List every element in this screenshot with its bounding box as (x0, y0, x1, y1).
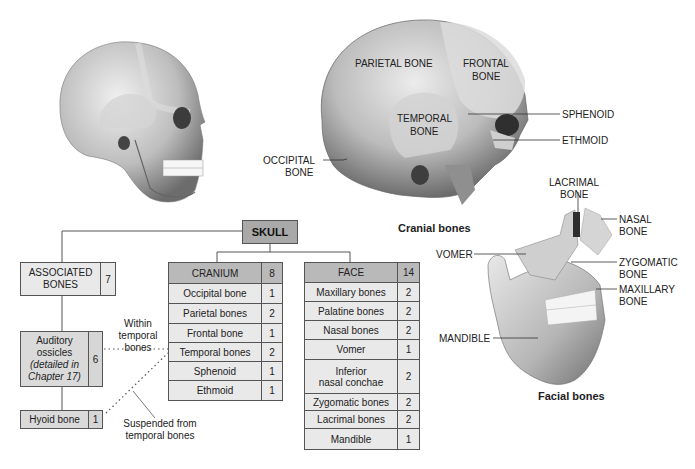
face-count: 14 (398, 263, 420, 283)
caption-facial-bones: Facial bones (538, 390, 605, 402)
face-row-name: Lacrimal bones (305, 411, 398, 429)
label-occipital-bone-line1: OCCIPITAL (263, 155, 315, 166)
associated-bones-box: ASSOCIATED BONES (20, 262, 101, 296)
label-parietal-bone: PARIETAL BONE (355, 58, 433, 69)
cranium-row-count: 1 (262, 362, 283, 381)
face-row-name: Nasal bones (305, 321, 398, 340)
face-row-count: 2 (398, 302, 420, 321)
auditory-line4: Chapter 17) (28, 371, 81, 383)
auditory-count: 6 (88, 331, 103, 387)
cranium-row-name: Sphenoid (169, 362, 262, 381)
label-frontal-bone-line1: FRONTAL (463, 58, 509, 69)
face-row-name: Maxillary bones (305, 283, 398, 302)
label-maxillary-bone-line2: BONE (619, 296, 647, 307)
cranium-row-name: Parietal bones (169, 304, 262, 324)
associated-title-line2: BONES (29, 279, 93, 291)
associated-title-line1: ASSOCIATED (29, 267, 93, 279)
face-row-count: 2 (398, 411, 420, 429)
face-row-count: 2 (398, 321, 420, 340)
face-row-count: 2 (398, 283, 420, 302)
label-ethmoid: ETHMOID (562, 135, 608, 146)
cranium-table: CRANIUM8 Occipital bone1 Parietal bones2… (168, 262, 283, 401)
face-row-count: 2 (398, 360, 420, 394)
face-title: FACE (305, 263, 398, 283)
label-nasal-bone-line2: BONE (619, 226, 647, 237)
face-row-name-line1: Inferior (307, 366, 395, 377)
hyoid-count: 1 (88, 410, 103, 429)
label-lacrimal-bone-line1: LACRIMAL (549, 177, 599, 188)
face-row-name: Zygomatic bones (305, 394, 398, 411)
whole-skull-illustration (60, 42, 205, 202)
face-row-name: Palatine bones (305, 302, 398, 321)
cranium-row-count: 1 (262, 284, 283, 304)
auditory-ossicles-box: Auditory ossicles (detailed in Chapter 1… (20, 331, 89, 387)
label-nasal-bone-line1: NASAL (619, 214, 652, 225)
note-within-temporal: Within temporal bones (112, 318, 164, 354)
label-sphenoid: SPHENOID (562, 109, 614, 120)
cranium-count: 8 (262, 263, 283, 284)
face-row-name: Vomer (305, 340, 398, 360)
auditory-line2: ossicles (28, 347, 81, 359)
label-temporal-bone-line2: BONE (410, 126, 438, 137)
skull-root-box: SKULL (242, 220, 298, 244)
face-table: FACE14 Maxillary bones2 Palatine bones2 … (304, 262, 420, 450)
cranium-row-count: 2 (262, 343, 283, 362)
label-temporal-bone-line1: TEMPORAL (397, 113, 452, 124)
auditory-line3: (detailed in (28, 359, 81, 371)
label-occipital-bone-line2: BONE (285, 167, 313, 178)
label-maxillary-bone-line1: MAXILLARY (619, 284, 675, 295)
note-within-line1: Within (112, 318, 164, 330)
cranium-row-count: 1 (262, 324, 283, 343)
face-row-count: 2 (398, 394, 420, 411)
associated-count: 7 (100, 262, 116, 296)
cranium-row-name: Ethmoid (169, 381, 262, 401)
face-row-name: Inferiornasal conchae (305, 360, 398, 394)
note-suspended-line2: temporal bones (115, 430, 205, 442)
cranium-title: CRANIUM (169, 263, 262, 284)
note-within-line2: temporal (112, 330, 164, 342)
cranium-row-name: Frontal bone (169, 324, 262, 343)
cranium-row-count: 1 (262, 381, 283, 401)
note-suspended-from-temporal: Suspended from temporal bones (115, 418, 205, 442)
auditory-line1: Auditory (28, 335, 81, 347)
label-vomer: VOMER (436, 249, 473, 260)
note-suspended-line1: Suspended from (115, 418, 205, 430)
hyoid-box: Hyoid bone (20, 410, 89, 429)
label-mandible: MANDIBLE (439, 333, 490, 344)
face-row-name-line2: nasal conchae (307, 377, 395, 388)
label-zygomatic-bone-line1: ZYGOMATIC (619, 257, 678, 268)
face-row-name: Mandible (305, 429, 398, 450)
cranium-row-name: Temporal bones (169, 343, 262, 362)
cranium-row-name: Occipital bone (169, 284, 262, 304)
label-frontal-bone-line2: BONE (472, 71, 500, 82)
face-row-count: 1 (398, 340, 420, 360)
label-zygomatic-bone-line2: BONE (619, 269, 647, 280)
note-within-line3: bones (112, 342, 164, 354)
cranium-row-count: 2 (262, 304, 283, 324)
caption-cranial-bones: Cranial bones (398, 222, 471, 234)
label-lacrimal-bone-line2: BONE (560, 189, 588, 200)
facial-bones-illustration (488, 208, 612, 384)
face-row-count: 1 (398, 429, 420, 450)
